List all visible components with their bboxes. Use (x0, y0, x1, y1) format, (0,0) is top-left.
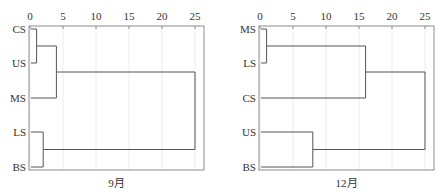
leaf-label: US (242, 126, 256, 138)
chart-caption: 12月 (336, 177, 358, 189)
x-tick-label: 0 (27, 10, 33, 22)
x-tick-label: 0 (257, 10, 263, 22)
x-tick-label: 20 (387, 10, 399, 22)
leaf-label: CS (243, 92, 256, 104)
x-tick-label: 5 (60, 10, 66, 22)
leaf-label: LS (243, 57, 256, 69)
x-tick-label: 10 (91, 10, 103, 22)
leaf-label: US (12, 57, 26, 69)
x-tick-label: 5 (290, 10, 296, 22)
leaf-label: CS (13, 23, 26, 35)
leaf-label: LS (13, 126, 26, 138)
leaf-label: BS (243, 161, 256, 173)
leaf-label: BS (13, 161, 26, 173)
x-tick-label: 25 (190, 10, 202, 22)
chart-canvas: 0510152025CSUSMSLSBS9月 0510152025MSLSCSU… (0, 0, 443, 196)
x-tick-label: 25 (420, 10, 432, 22)
leaf-label: MS (240, 23, 256, 35)
dendrogram-december: 0510152025MSLSCSUSBS12月 (240, 10, 434, 189)
x-tick-label: 15 (354, 10, 366, 22)
leaf-label: MS (10, 92, 26, 104)
x-tick-label: 20 (157, 10, 169, 22)
x-tick-label: 15 (124, 10, 136, 22)
chart-caption: 9月 (108, 177, 125, 189)
x-tick-label: 10 (321, 10, 333, 22)
dendrogram-september: 0510152025CSUSMSLSBS9月 (10, 10, 204, 189)
dendrogram-figure: 0510152025CSUSMSLSBS9月 0510152025MSLSCSU… (0, 0, 443, 196)
